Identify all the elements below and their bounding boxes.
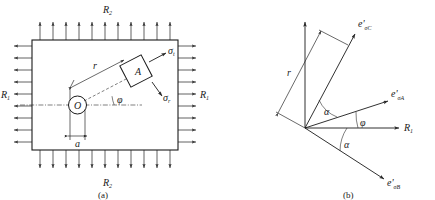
R1-left-base: R <box>0 89 7 100</box>
figure-root: O a r φ A σt <box>0 0 435 200</box>
angle-phi-label: φ <box>117 94 123 105</box>
R2-top-sub: 2 <box>109 10 112 16</box>
caption-panel-b: (b) <box>343 190 354 200</box>
plate-rectangle <box>32 40 178 150</box>
panel-a: O a r φ A σt <box>0 4 209 200</box>
R1-b-sub: 1 <box>410 128 413 134</box>
label-e-sigma-C: e'σC <box>358 18 373 31</box>
r-extension-tip-b <box>319 30 348 45</box>
r-extension-origin-b <box>276 112 305 128</box>
left-load-arrows <box>14 46 32 142</box>
hole-center-label: O <box>74 100 81 111</box>
label-e-sigma-A: e'σA <box>391 88 405 101</box>
e-sigma-B-sub: σB <box>394 184 401 190</box>
label-R1-left: R1 <box>0 89 10 101</box>
label-R1-panel-b: R1 <box>403 122 413 134</box>
R2-bottom-sub: 2 <box>109 183 112 189</box>
right-load-arrows <box>178 46 196 142</box>
r-dimension-line-b <box>278 31 321 113</box>
R1-right-base: R <box>199 89 206 100</box>
R1-b-base: R <box>403 122 410 133</box>
caption-panel-a: (a) <box>98 190 108 200</box>
radius-label-r-b: r <box>287 67 291 78</box>
R1-left-sub: 1 <box>7 95 10 101</box>
R2-bottom-base: R <box>102 177 109 188</box>
R2-top-base: R <box>102 4 109 15</box>
ray-e-sigma-B <box>305 128 384 179</box>
figure-canvas: O a r φ A σt <box>0 0 435 200</box>
angle-alpha-lower-label: α <box>344 139 350 150</box>
label-R2-bottom: R2 <box>102 177 112 189</box>
label-e-sigma-B: e'σB <box>387 177 401 190</box>
label-R2-top: R2 <box>102 4 112 16</box>
angle-phi-label-b: φ <box>360 117 366 128</box>
label-R1-right: R1 <box>199 89 209 101</box>
angle-alpha-upper-label: α <box>324 106 330 117</box>
element-label-A: A <box>134 66 142 77</box>
angle-phi-arc-b <box>356 112 358 128</box>
R1-right-sub: 1 <box>206 95 209 101</box>
e-sigma-C-sub: σC <box>365 25 373 31</box>
bottom-load-arrows <box>40 150 170 168</box>
top-load-arrows <box>40 22 170 40</box>
dimension-a-label: a <box>75 138 80 149</box>
e-sigma-A-sub: σA <box>398 95 405 101</box>
panel-b: e'σC e'σA R1 e'σB r <box>276 18 413 200</box>
radius-label-r: r <box>93 60 97 71</box>
